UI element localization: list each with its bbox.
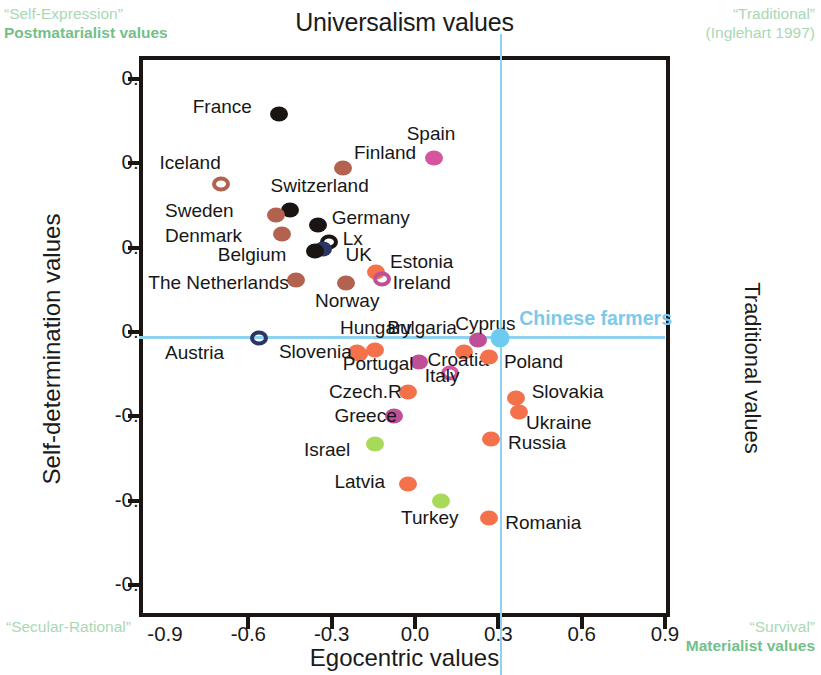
point-label-spain: Spain: [407, 124, 456, 143]
point-label-greece: Greece: [334, 406, 396, 425]
annotation-survival: “Survival”: [686, 617, 815, 636]
annotation-materialist: Materialist values: [686, 636, 815, 655]
chart-title: Universalism values: [139, 8, 670, 37]
data-point-belgium: [306, 244, 324, 259]
point-label-slovenia: Slovenia: [279, 342, 352, 361]
x-axis-title: Egocentric values: [139, 644, 670, 672]
point-label-poland: Poland: [504, 352, 563, 371]
right-axis-title: Traditional values: [739, 153, 765, 583]
data-point-cyprus: [469, 333, 487, 348]
point-label-romania: Romania: [505, 513, 581, 532]
annotation-bottom-right: “Survival” Materialist values: [686, 617, 815, 656]
point-label-austria: Austria: [165, 343, 224, 362]
point-label-latvia: Latvia: [334, 472, 385, 491]
annotation-bottom-left: “Secular-Rational”: [6, 617, 131, 636]
point-label-bulgaria: Bulgaria: [387, 318, 457, 337]
data-point-czech-r: [399, 385, 417, 400]
data-point-denmark: [273, 226, 291, 241]
data-point-slovakia: [507, 391, 525, 406]
data-point-russia: [482, 431, 500, 446]
point-label-russia: Russia: [508, 433, 566, 452]
annotation-top-right: “Traditional” (Inglehart 1997): [706, 4, 815, 43]
data-point-turkey: [432, 493, 450, 508]
chart-canvas: “Self-Expression” Postmatarialist values…: [0, 0, 821, 675]
point-label-the-netherlands: The Netherlands: [148, 273, 288, 292]
annotation-secular-rational: “Secular-Rational”: [6, 617, 131, 636]
data-point-romania: [480, 510, 498, 525]
point-label-iceland: Iceland: [159, 153, 220, 172]
point-label-israel: Israel: [304, 440, 350, 459]
x-tick-label: -0.9: [130, 622, 200, 646]
point-label-ukraine: Ukraine: [526, 413, 591, 432]
point-label-italy: Italy: [425, 366, 460, 385]
point-label-sweden: Sweden: [165, 201, 234, 220]
x-tick-mark: [580, 617, 584, 629]
point-label-germany: Germany: [332, 208, 410, 227]
y-axis-title: Self-determination values: [38, 134, 66, 564]
data-point-chinese-farmers: [490, 328, 509, 347]
annotation-traditional: “Traditional”: [706, 4, 815, 23]
data-point-latvia: [399, 476, 417, 491]
data-point-iceland: [212, 177, 230, 192]
point-label-chinese-farmers: Chinese farmers: [519, 309, 672, 329]
data-point-austria: [250, 330, 268, 345]
data-point-sweden: [267, 208, 285, 223]
data-point-france: [270, 107, 288, 122]
point-label-ireland: Ireland: [393, 273, 451, 292]
data-point-poland: [480, 350, 498, 365]
data-point-norway: [337, 275, 355, 290]
x-tick-mark: [246, 617, 250, 629]
point-label-cyprus: Cyprus: [455, 314, 515, 333]
point-label-france: France: [193, 97, 252, 116]
point-label-turkey: Turkey: [401, 508, 458, 527]
data-point-israel: [366, 437, 384, 452]
point-label-portugal: Portugal: [343, 354, 414, 373]
data-point-the-netherlands: [287, 272, 305, 287]
point-label-slovakia: Slovakia: [532, 382, 604, 401]
point-label-uk: UK: [346, 245, 372, 264]
x-tick-mark: [663, 617, 667, 629]
reference-line-vertical: [500, 34, 503, 675]
point-label-belgium: Belgium: [218, 245, 287, 264]
point-label-switzerland: Switzerland: [271, 176, 369, 195]
data-point-spain: [425, 150, 443, 165]
data-point-finland: [334, 160, 352, 175]
x-tick-mark: [413, 617, 417, 629]
point-label-norway: Norway: [315, 291, 379, 310]
point-label-czech-r: Czech.R: [329, 382, 402, 401]
annotation-inglehart-source: (Inglehart 1997): [706, 23, 815, 42]
data-point-ireland: [373, 271, 391, 286]
point-label-denmark: Denmark: [165, 226, 242, 245]
point-label-estonia: Estonia: [390, 252, 453, 271]
data-point-germany: [309, 218, 327, 233]
point-label-finland: Finland: [354, 143, 416, 162]
x-tick-mark: [330, 617, 334, 629]
